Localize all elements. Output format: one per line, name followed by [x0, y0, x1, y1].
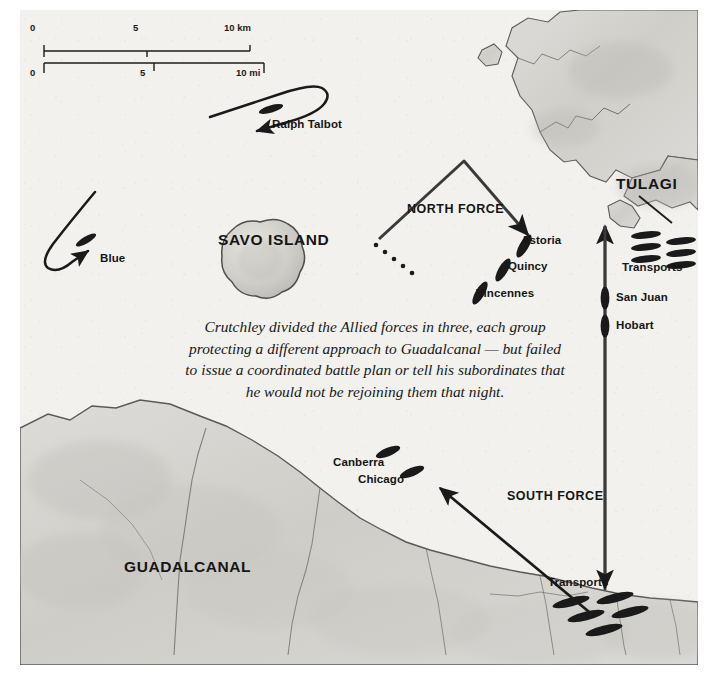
scale-km-tick-0: 0: [30, 22, 35, 33]
north-force-track: [374, 161, 528, 275]
ship-san-juan: [601, 287, 610, 310]
ship-ralph-talbot: [258, 102, 284, 116]
caption-line-2: protecting a different approach to Guada…: [140, 338, 610, 360]
ship-blue: [74, 231, 97, 248]
map-canvas[interactable]: 0 5 10 km 0 5 10 mi SAVO ISLAND TULAGI G…: [20, 10, 698, 665]
place-label-tulagi: TULAGI: [616, 175, 677, 193]
scale-km-tick-5: 5: [133, 22, 138, 33]
force-label-south-force: SOUTH FORCE: [507, 489, 603, 503]
ship-label-canberra: Canberra: [333, 456, 384, 468]
caption-line-4: he would not be rejoining them that nigh…: [140, 381, 610, 403]
ship-label-astoria: Astoria: [521, 234, 561, 246]
ship-label-chicago: Chicago: [358, 473, 404, 485]
ship-label-blue: Blue: [100, 252, 125, 264]
ship-label-ralph-talbot: Ralph Talbot: [272, 118, 342, 130]
ship-label-hobart: Hobart: [616, 319, 654, 331]
map-caption: Crutchley divided the Allied forces in t…: [140, 316, 610, 402]
scale-mi-tick-0: 0: [30, 67, 35, 78]
blue-patrol-track: [45, 192, 95, 270]
ship-label-vincennes: Vincennes: [476, 287, 534, 299]
north-force-dotted-tail: [374, 243, 415, 276]
place-label-guadalcanal: GUADALCANAL: [124, 558, 251, 576]
south-force-track: [440, 488, 594, 616]
scale-mi-tick-5: 5: [140, 67, 145, 78]
scale-mi-tick-10: 10 mi: [236, 67, 260, 78]
tulagi-leader-line: [639, 196, 672, 223]
transports-label-guadalcanal: Transports: [548, 576, 608, 588]
scale-km-tick-10: 10 km: [224, 22, 251, 33]
caption-line-1: Crutchley divided the Allied forces in t…: [140, 316, 610, 338]
map-screenshot: 0 5 10 km 0 5 10 mi SAVO ISLAND TULAGI G…: [0, 0, 717, 693]
force-label-north-force: NORTH FORCE: [407, 202, 504, 216]
caption-line-3: to issue a coordinated battle plan or te…: [140, 359, 610, 381]
place-label-savo-island: SAVO ISLAND: [218, 231, 329, 249]
ship-label-quincy: Quincy: [508, 260, 548, 272]
transports-guadalcanal-group: [551, 589, 649, 639]
transports-label-tulagi: Transports: [622, 261, 682, 273]
ship-label-san-juan: San Juan: [616, 291, 668, 303]
